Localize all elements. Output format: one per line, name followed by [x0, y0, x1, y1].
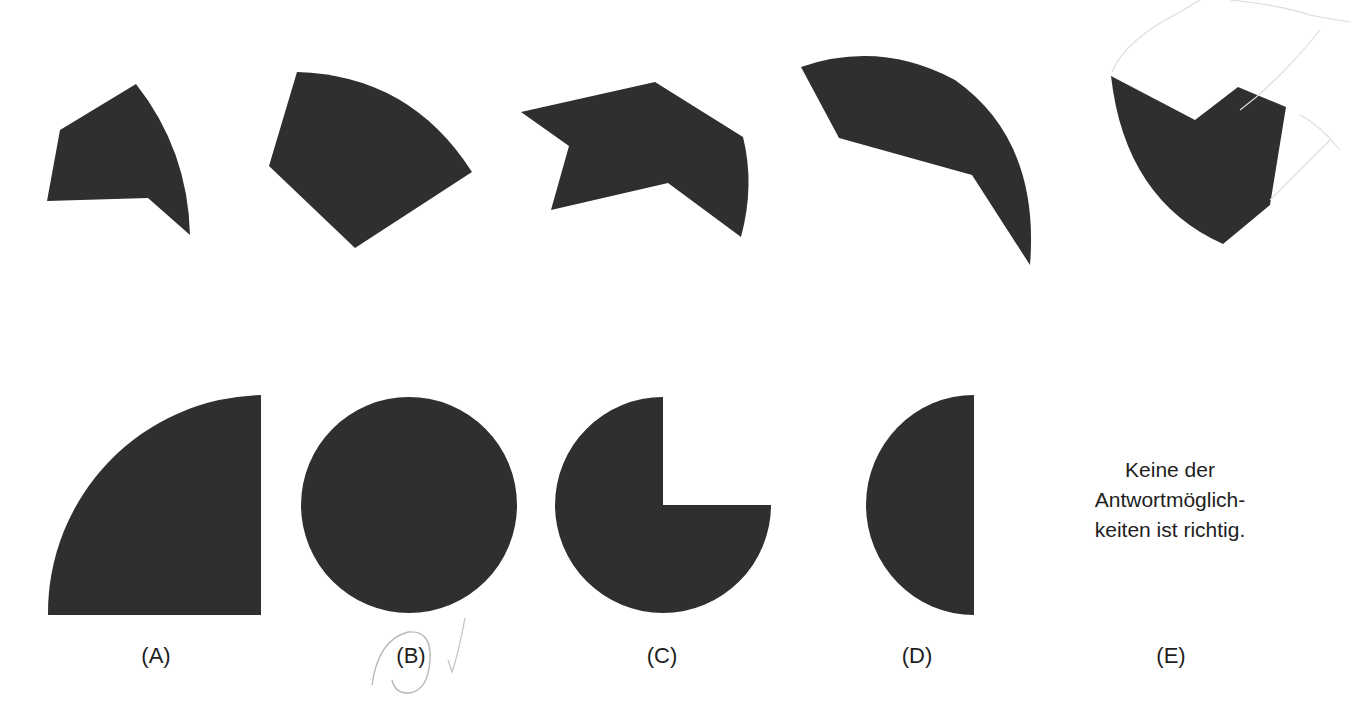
- option-e-label[interactable]: (E): [1131, 643, 1211, 669]
- option-a-label[interactable]: (A): [116, 643, 196, 669]
- puzzle-piece-3: [521, 82, 749, 237]
- option-e-line-1: Keine der: [1060, 455, 1280, 485]
- puzzle-piece-4: [801, 56, 1031, 265]
- option-d-half-circle[interactable]: [866, 395, 974, 615]
- option-d-label[interactable]: (D): [877, 643, 957, 669]
- option-c-three-quarter-circle[interactable]: [555, 397, 771, 613]
- puzzle-piece-5: [1111, 76, 1286, 244]
- option-e-line-2: Antwortmöglich-: [1060, 485, 1280, 515]
- puzzle-piece-2: [269, 72, 472, 248]
- puzzle-page: Keine der Antwortmöglich- keiten ist ric…: [0, 0, 1351, 717]
- option-a-quarter-circle[interactable]: [48, 395, 261, 615]
- option-b-circle[interactable]: [301, 397, 517, 613]
- option-e-line-3: keiten ist richtig.: [1060, 515, 1280, 545]
- option-c-label[interactable]: (C): [622, 643, 702, 669]
- option-e-text[interactable]: Keine der Antwortmöglich- keiten ist ric…: [1060, 455, 1280, 545]
- puzzle-piece-1: [47, 84, 190, 235]
- option-b-label[interactable]: (B): [371, 643, 451, 669]
